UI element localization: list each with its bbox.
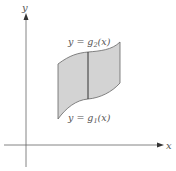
shaded-region <box>58 42 120 119</box>
upper-label-suffix: (x) <box>98 36 111 47</box>
x-axis-arrow-icon <box>157 143 164 148</box>
lower-curve-label: y = g1(x) <box>67 112 111 125</box>
lower-label-prefix: y = g <box>67 112 93 123</box>
diagram-canvas: y x y = g2(x) y = g1(x) <box>0 0 176 171</box>
y-axis-label: y <box>21 2 28 13</box>
upper-label-prefix: y = g <box>67 36 93 47</box>
lower-label-suffix: (x) <box>98 112 111 123</box>
y-axis-arrow-icon <box>24 13 29 20</box>
x-axis-label: x <box>166 140 172 151</box>
upper-curve-label: y = g2(x) <box>67 36 111 49</box>
